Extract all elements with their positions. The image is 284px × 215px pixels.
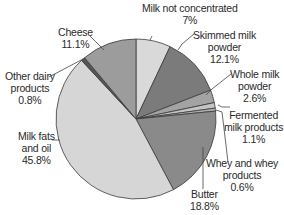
label-milk-fats-and-oil: Milk fats and oil 45.8%	[18, 130, 55, 166]
label-text: Milk fats	[18, 130, 55, 142]
label-text: Skimmed milk	[193, 29, 256, 41]
pie-slices	[56, 39, 216, 199]
label-text: powder	[230, 80, 279, 92]
label-cheese: Cheese 11.1%	[58, 26, 93, 50]
label-value: 45.8%	[18, 154, 55, 166]
label-text: Milk not concentrated	[142, 2, 238, 14]
label-value: 11.1%	[58, 38, 93, 50]
label-text: Other dairy	[5, 70, 55, 82]
leader-fermented	[218, 105, 230, 107]
label-value: 0.8%	[5, 94, 55, 106]
label-fermented-milk-products: Fermented milk products 1.1%	[224, 109, 283, 145]
label-text: Cheese	[58, 26, 93, 38]
label-text: Whole milk	[230, 68, 279, 80]
label-value: 7%	[142, 14, 238, 26]
leader-milk-not-concentrated	[150, 36, 152, 40]
label-value: 18.8%	[190, 200, 219, 212]
label-whole-milk-powder: Whole milk powder 2.6%	[230, 68, 279, 104]
label-other-dairy-products: Other dairy products 0.8%	[5, 70, 55, 106]
label-text: and oil	[18, 142, 55, 154]
label-text: Whey and whey	[206, 157, 278, 169]
label-text: powder	[193, 41, 256, 53]
label-skimmed-milk-powder: Skimmed milk powder 12.1%	[193, 29, 256, 65]
label-text: Fermented	[224, 109, 283, 121]
leader-skimmed	[178, 34, 194, 50]
label-text: Butter	[190, 188, 219, 200]
label-butter: Butter 18.8%	[190, 188, 219, 212]
label-value: 1.1%	[224, 133, 283, 145]
label-text: milk products	[224, 121, 283, 133]
label-text: products	[206, 169, 278, 181]
label-value: 2.6%	[230, 92, 279, 104]
label-text: products	[5, 82, 55, 94]
label-value: 12.1%	[193, 53, 256, 65]
label-milk-not-concentrated: Milk not concentrated 7%	[142, 2, 238, 26]
